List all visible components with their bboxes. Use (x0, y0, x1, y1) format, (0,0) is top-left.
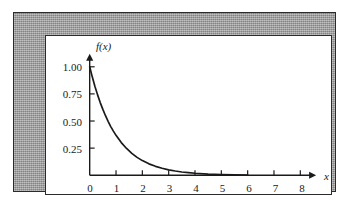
x-tick-label: 7 (264, 183, 288, 194)
x-tick-label: 6 (237, 183, 261, 194)
y-axis-label: f(x) (96, 41, 111, 52)
y-tick-label: 0.50 (63, 117, 82, 128)
x-tick-label: 4 (184, 183, 208, 194)
figure-frame-border: f(x) x 0.250.500.751.00 012345678 (13, 12, 336, 192)
x-tick-label: 2 (131, 183, 155, 194)
tick-marks-group (90, 67, 301, 175)
x-tick-label: 3 (158, 183, 182, 194)
x-tick-label: 1 (105, 183, 129, 194)
x-tick-label: 8 (290, 183, 314, 194)
x-tick-label: 0 (78, 183, 102, 194)
x-tick-label: 5 (211, 183, 235, 194)
axes-group (86, 54, 316, 179)
y-tick-label: 1.00 (63, 62, 82, 73)
x-axis-label: x (324, 171, 329, 182)
chart-svg (46, 36, 331, 194)
y-tick-label: 0.25 (63, 144, 82, 155)
plot-panel: f(x) x 0.250.500.751.00 012345678 (45, 35, 332, 195)
data-curve-group (90, 67, 248, 175)
figure-container: f(x) x 0.250.500.751.00 012345678 (0, 0, 349, 204)
y-tick-label: 0.75 (63, 89, 82, 100)
